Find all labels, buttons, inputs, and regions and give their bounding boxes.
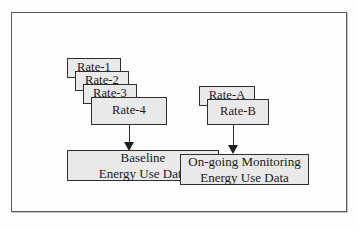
ongoing-monitoring-energy-use-data-box[interactable]: On-going Monitoring Energy Use Data	[180, 154, 309, 185]
baseline-label-line1: Baseline	[121, 150, 166, 166]
arrow-rate4-to-baseline-icon	[124, 125, 135, 152]
diagram-frame: Rate-1 Rate-2 Rate-3 Rate-4 Rate-A Rate-…	[11, 12, 347, 212]
ongoing-label-line2: Energy Use Data	[200, 170, 289, 186]
arrow-rateb-to-ongoing-icon	[228, 125, 239, 156]
baseline-label-line2: Energy Use Data	[99, 166, 188, 182]
rate-box-rate-b[interactable]: Rate-B	[207, 99, 269, 125]
diagram-canvas: Rate-1 Rate-2 Rate-3 Rate-4 Rate-A Rate-…	[0, 0, 358, 230]
arrow-shaft	[129, 125, 130, 143]
ongoing-label-line1: On-going Monitoring	[188, 154, 300, 170]
rate-box-rate-4[interactable]: Rate-4	[91, 97, 167, 125]
arrow-shaft	[233, 125, 234, 146]
arrow-head	[228, 145, 238, 154]
